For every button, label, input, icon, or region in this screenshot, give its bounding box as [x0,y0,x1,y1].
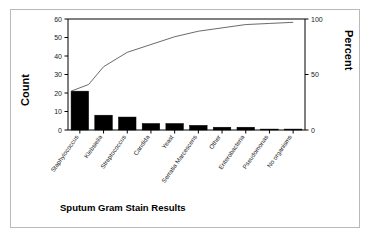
bar-series [71,91,302,130]
right-tick-label: 0 [311,127,315,134]
category-label: Other [207,134,222,151]
x-axis-ticks [80,130,293,134]
right-tick-label: 100 [311,16,323,23]
bar [71,91,89,130]
right-axis-title: Percent [343,30,355,71]
left-tick-label: 10 [54,108,62,115]
category-label: Streptococcus [99,134,127,170]
bar [237,127,255,130]
bar [213,127,231,130]
left-axis-ticks: 0102030405060 [54,16,68,134]
bar [118,117,136,130]
left-tick-label: 40 [54,53,62,60]
pareto-chart: 0102030405060 050100 StaphylococcusKlebs… [0,0,371,239]
bar [284,129,302,130]
bar [190,125,208,130]
right-axis-ticks: 050100 [305,16,323,134]
category-label: No organisms [265,134,293,169]
left-tick-label: 0 [58,127,62,134]
category-label: Staphylococcus [49,134,80,174]
category-label: Yeast [160,133,175,150]
left-tick-label: 20 [54,90,62,97]
left-tick-label: 60 [54,16,62,23]
x-axis-title: Sputum Gram Stain Results [60,202,186,213]
left-axis-title: Count [19,74,31,106]
plot-axes [68,19,305,130]
left-tick-label: 30 [54,71,62,78]
left-tick-label: 50 [54,34,62,41]
bar [142,124,160,130]
bar [95,115,113,130]
bar [261,129,279,130]
right-tick-label: 50 [311,71,319,78]
category-labels: StaphylococcusKlebsiellaStreptococcusCan… [49,133,293,184]
cumulative-percent-line [71,22,293,91]
bar [166,124,184,130]
category-label: Candida [132,133,151,156]
category-label: Klebsiella [82,133,103,159]
